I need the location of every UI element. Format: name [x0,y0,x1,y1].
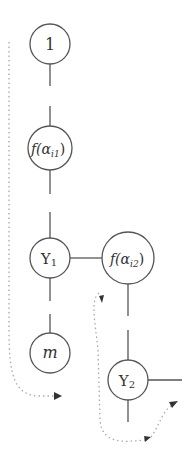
node-f-alpha-i1-label: f(αi1) [30,141,65,159]
arrowhead-icon [99,295,104,303]
node-y1: Y1 [30,238,70,278]
node-m: m [30,333,70,373]
node-1-label: 1 [45,35,55,54]
node-1: 1 [30,24,70,64]
arrowhead-icon [54,392,62,400]
dotted-traversal-path-2b [151,404,174,437]
node-f-alpha-i2-label: f(αi2) [109,251,144,269]
node-m-label: m [42,343,57,362]
tree-diagram: 1 f(αi1) Y1 m f(αi2) Y2 [0,0,195,472]
arrowhead-icon [144,436,151,442]
node-f-alpha-i1: f(αi1) [28,126,72,170]
node-f-alpha-i2: f(αi2) [102,232,154,284]
node-y2: Y2 [108,360,148,400]
